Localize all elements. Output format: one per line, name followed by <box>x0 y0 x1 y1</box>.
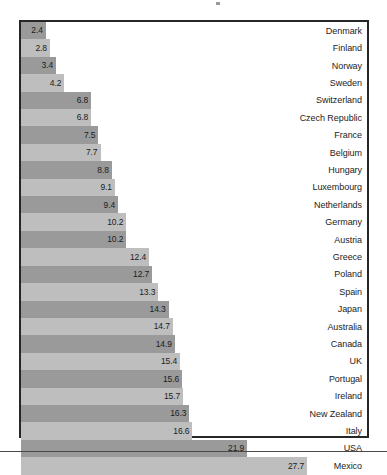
bar-row: 6.8Switzerland <box>21 92 367 109</box>
category-label: Australia <box>327 318 362 335</box>
category-label: France <box>334 126 362 143</box>
bar: 15.6 <box>21 370 182 387</box>
bar: 7.5 <box>21 126 98 143</box>
bar-value-label: 4.2 <box>50 79 65 88</box>
bar: 13.3 <box>21 283 158 300</box>
bar-value-label: 13.3 <box>139 288 158 297</box>
bar-value-label: 7.5 <box>84 131 99 140</box>
bar: 9.4 <box>21 196 118 213</box>
bar: 6.8 <box>21 92 91 109</box>
bar: 21.9 <box>21 440 247 457</box>
bar-value-label: 10.2 <box>107 218 126 227</box>
bar: 15.4 <box>21 353 180 370</box>
bar: 8.8 <box>21 161 112 178</box>
bar: 6.8 <box>21 109 91 126</box>
bar-value-label: 27.7 <box>288 462 307 471</box>
category-label: Greece <box>333 248 362 265</box>
bar: 14.3 <box>21 301 169 318</box>
category-label: Canada <box>331 335 362 352</box>
category-label: Poland <box>334 266 362 283</box>
category-label: Austria <box>334 231 362 248</box>
category-label: Switzerland <box>316 92 362 109</box>
plot-area-frame: 2.4Denmark2.8Finland3.4Norway4.2Sweden6.… <box>19 20 369 438</box>
category-label: Belgium <box>330 144 362 161</box>
category-label: Germany <box>325 213 362 230</box>
category-label: Denmark <box>326 22 362 39</box>
bar-row: 7.5France <box>21 126 367 143</box>
bar-value-label: 9.1 <box>100 183 115 192</box>
category-label: Ireland <box>335 388 362 405</box>
bar: 16.6 <box>21 422 192 439</box>
category-label: Mexico <box>334 457 362 474</box>
category-label: Spain <box>339 283 362 300</box>
bar-value-label: 16.6 <box>173 427 192 436</box>
bar-row: 14.7Australia <box>21 318 367 335</box>
scan-artifact-speck <box>216 2 220 5</box>
bar-row: 14.9Canada <box>21 335 367 352</box>
bar-row: 15.7Ireland <box>21 388 367 405</box>
bar-row: 12.7Poland <box>21 266 367 283</box>
category-label: Italy <box>346 422 362 439</box>
bar-row: 2.8Finland <box>21 39 367 56</box>
category-label: Sweden <box>330 74 362 91</box>
bar-value-label: 14.3 <box>150 305 169 314</box>
bar-value-label: 12.4 <box>130 253 149 262</box>
category-label: Netherlands <box>314 196 362 213</box>
bar: 14.7 <box>21 318 173 335</box>
bar-value-label: 9.4 <box>104 201 119 210</box>
bar-row: 16.6Italy <box>21 422 367 439</box>
category-label: Portugal <box>329 370 362 387</box>
category-label: Luxembourg <box>312 179 362 196</box>
bar-value-label: 7.7 <box>86 148 101 157</box>
bar: 2.8 <box>21 39 50 56</box>
bar-row: 15.4UK <box>21 353 367 370</box>
bar: 27.7 <box>21 457 307 474</box>
bar-row: 15.6Portugal <box>21 370 367 387</box>
category-label: Japan <box>338 301 362 318</box>
bar-value-label: 10.2 <box>107 235 126 244</box>
bar: 7.7 <box>21 144 101 161</box>
bar-row: 21.9USA <box>21 440 367 457</box>
category-label: Finland <box>333 39 362 56</box>
bar-row: 10.2Austria <box>21 231 367 248</box>
bar-value-label: 6.8 <box>77 113 92 122</box>
bar-value-label: 16.3 <box>170 409 189 418</box>
bar: 12.7 <box>21 266 152 283</box>
bar-row: 8.8Hungary <box>21 161 367 178</box>
bar-value-label: 14.7 <box>154 322 173 331</box>
bar-row: 10.2Germany <box>21 213 367 230</box>
bar: 10.2 <box>21 213 126 230</box>
bar-row: 9.1Luxembourg <box>21 179 367 196</box>
category-label: New Zealand <box>310 405 362 422</box>
bar-value-label: 3.4 <box>42 61 57 70</box>
bar: 16.3 <box>21 405 189 422</box>
footer-divider-rule <box>0 451 387 452</box>
category-label: USA <box>344 440 362 457</box>
bar-row: 16.3New Zealand <box>21 405 367 422</box>
bar: 10.2 <box>21 231 126 248</box>
bar-value-label: 12.7 <box>133 270 152 279</box>
bar-row: 7.7Belgium <box>21 144 367 161</box>
bar: 2.4 <box>21 22 46 39</box>
bar-row: 13.3Spain <box>21 283 367 300</box>
bar: 9.1 <box>21 179 115 196</box>
bar-row: 27.7Mexico <box>21 457 367 474</box>
bar-value-label: 8.8 <box>97 166 112 175</box>
category-label: Czech Republic <box>300 109 362 126</box>
bar-value-label: 14.9 <box>156 340 175 349</box>
bar: 4.2 <box>21 74 64 91</box>
bar-value-label: 6.8 <box>77 96 92 105</box>
bar: 15.7 <box>21 388 183 405</box>
bar-row: 14.3Japan <box>21 301 367 318</box>
bar-row: 12.4Greece <box>21 248 367 265</box>
category-label: UK <box>350 353 362 370</box>
bar-value-label: 15.4 <box>161 357 180 366</box>
bar: 14.9 <box>21 335 175 352</box>
bar-row: 6.8Czech Republic <box>21 109 367 126</box>
bar-value-label: 15.7 <box>164 392 183 401</box>
bar: 3.4 <box>21 57 56 74</box>
bar-row: 3.4Norway <box>21 57 367 74</box>
bar-value-label: 2.4 <box>31 26 46 35</box>
bar-value-label: 15.6 <box>163 375 182 384</box>
